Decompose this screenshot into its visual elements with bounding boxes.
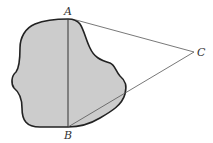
label-c: C bbox=[197, 46, 206, 59]
segment-ac bbox=[76, 20, 194, 52]
label-b: B bbox=[63, 129, 72, 142]
label-a: A bbox=[63, 5, 72, 18]
geometry-diagram: A B C bbox=[0, 0, 213, 143]
shaded-region bbox=[12, 19, 126, 127]
